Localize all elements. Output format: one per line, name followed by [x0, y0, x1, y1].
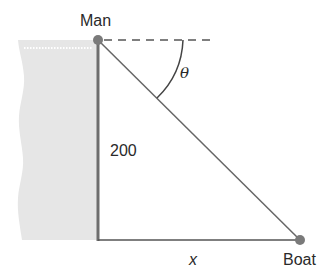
diagram-canvas	[0, 0, 334, 279]
boat-label: Boat	[283, 252, 316, 268]
height-label: 200	[110, 143, 137, 159]
distance-x-label: x	[189, 252, 197, 268]
diagram: Man Boat 200 x θ	[0, 0, 334, 279]
man-label: Man	[80, 13, 111, 29]
boat-point	[295, 235, 305, 245]
hypotenuse-line	[98, 40, 300, 240]
angle-theta-label: θ	[180, 66, 189, 81]
man-point	[93, 35, 103, 45]
cliff-region	[18, 40, 97, 240]
